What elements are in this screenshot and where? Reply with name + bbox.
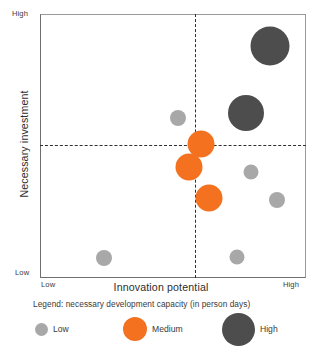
plot-area [40,14,306,278]
legend: Legend: necessary development capacity (… [0,299,322,361]
legend-label-low: Low [53,324,69,334]
bubble-medium-2 [175,153,202,180]
legend-item-medium: Medium [123,315,183,343]
legend-title: Legend: necessary development capacity (… [33,299,250,309]
legend-item-low: Low [35,315,69,343]
legend-swatch-medium [123,317,147,341]
bubble-low-3 [269,192,285,208]
bubble-chart: High Low Low High Innovation potential N… [0,0,322,364]
bubble-medium-3 [196,185,223,212]
y-axis-tick-low: Low [15,268,29,277]
legend-swatch-low [35,323,48,336]
legend-item-high: High [222,315,278,343]
legend-label-high: High [260,324,278,334]
bubble-low-1 [170,110,186,126]
legend-label-medium: Medium [152,324,183,334]
x-axis-title: Innovation potential [0,281,322,293]
bubble-high-2 [228,95,264,131]
bubble-low-2 [244,164,259,179]
legend-swatch-high [222,313,255,346]
bubble-high-1 [250,26,289,65]
y-axis-tick-high: High [12,9,28,18]
bubble-low-5 [96,250,112,266]
quadrant-divider-horizontal [40,145,306,146]
bubble-low-4 [230,250,245,265]
y-axis-title: Necessary investment [18,64,30,224]
